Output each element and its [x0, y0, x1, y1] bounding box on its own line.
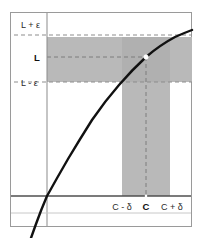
- y-label-center: L: [34, 52, 40, 63]
- epsilon-band: [47, 37, 192, 82]
- x-label-left: C - δ: [112, 202, 132, 212]
- y-label-upper: L + ε: [21, 20, 40, 30]
- limit-definition-figure: L + ε L L - ε C - δ C C + δ: [0, 0, 202, 238]
- x-label-center: C: [143, 201, 150, 212]
- x-label-right: C + δ: [161, 202, 183, 212]
- y-label-lower: L - ε: [21, 78, 38, 88]
- x-axis-tick-c: [145, 195, 148, 198]
- limit-point-marker: [144, 55, 148, 59]
- figure-canvas: L + ε L L - ε C - δ C C + δ: [0, 0, 202, 238]
